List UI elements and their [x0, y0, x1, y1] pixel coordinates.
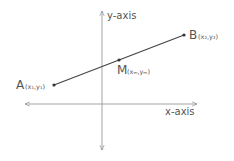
- y-axis-label: y-axis: [107, 10, 136, 21]
- svg-text:(xₘ,yₘ): (xₘ,yₘ): [127, 68, 150, 76]
- svg-text:(x₁,y₁): (x₁,y₁): [25, 83, 45, 91]
- point-m-label: M (xₘ,yₘ): [117, 63, 150, 77]
- svg-text:B: B: [189, 28, 197, 42]
- point-a-label: A (x₁,y₁): [16, 78, 45, 92]
- svg-text:M: M: [117, 63, 127, 77]
- point-m-dot: [117, 58, 120, 61]
- point-b-label: B (x₂,y₂): [189, 28, 218, 42]
- x-axis-label: x-axis: [165, 106, 195, 117]
- point-b-dot: [182, 33, 185, 36]
- midpoint-diagram: y-axis x-axis A (x₁,y₁) M (xₘ,yₘ) B (x₂,…: [0, 0, 234, 161]
- svg-text:A: A: [16, 78, 25, 92]
- svg-text:(x₂,y₂): (x₂,y₂): [198, 33, 218, 41]
- point-a-dot: [52, 83, 55, 86]
